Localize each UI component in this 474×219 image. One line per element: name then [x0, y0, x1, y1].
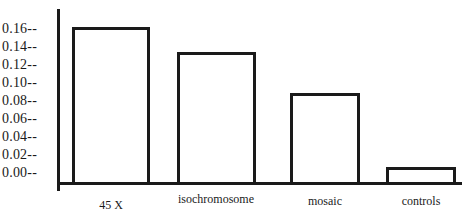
y-axis — [57, 9, 60, 191]
x-category-label: isochromosome — [166, 193, 266, 205]
y-tick-label: 0.16-- — [2, 22, 58, 36]
y-tick-label: 0.06-- — [2, 112, 58, 126]
bar-chart: 0.16-- 0.14-- 0.12-- 0.10-- 0.08-- 0.06-… — [0, 0, 474, 219]
y-tick-label: 0.14-- — [2, 40, 58, 54]
bar-mosaic — [290, 93, 360, 183]
x-category-label: 45 X — [72, 199, 150, 211]
bar-isochromosome — [177, 52, 256, 183]
y-tick-label: 0.00-- — [2, 166, 58, 180]
y-tick-label: 0.04-- — [2, 130, 58, 144]
x-category-label: controls — [376, 195, 466, 207]
bar-controls — [386, 167, 456, 183]
bar-45x — [72, 27, 150, 183]
y-tick-label: 0.08-- — [2, 94, 58, 108]
y-tick-label: 0.12-- — [2, 58, 58, 72]
x-category-label: mosaic — [280, 195, 370, 207]
x-axis — [57, 182, 462, 185]
y-tick-label: 0.02-- — [2, 148, 58, 162]
y-tick-label: 0.10-- — [2, 76, 58, 90]
